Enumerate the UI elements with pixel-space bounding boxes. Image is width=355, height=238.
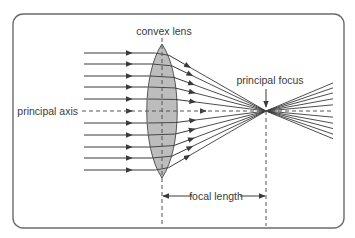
converging-ray [175, 129, 195, 134]
convex-lens-diagram: convex lens principal axis principal foc… [0, 0, 355, 238]
diagram-canvas: convex lens principal axis principal foc… [0, 0, 355, 238]
converging-ray [176, 120, 196, 123]
converging-ray-tail [196, 111, 266, 120]
converging-ray [174, 77, 194, 84]
converging-ray [176, 99, 196, 102]
converging-ray-tail [194, 111, 266, 138]
converging-ray-tail [195, 93, 266, 111]
converging-ray-tail [193, 111, 266, 146]
converging-ray-tail [196, 102, 266, 111]
converging-ray [174, 138, 194, 146]
converging-ray [172, 146, 193, 156]
converging-ray-tail [195, 111, 266, 129]
focal-length-label: focal length [189, 190, 243, 202]
diverging-ray [266, 111, 333, 123]
convex-lens-label: convex lens [136, 25, 191, 37]
converging-ray [175, 88, 195, 93]
diverging-ray [266, 83, 333, 111]
principal-focus-label: principal focus [236, 74, 303, 86]
converging-ray-tail [190, 111, 266, 155]
principal-axis-label: principal axis [17, 105, 78, 117]
diverging-ray [266, 111, 333, 139]
converging-ray [169, 155, 190, 167]
converging-ray-tail [194, 85, 266, 111]
diverging-ray [266, 99, 333, 111]
